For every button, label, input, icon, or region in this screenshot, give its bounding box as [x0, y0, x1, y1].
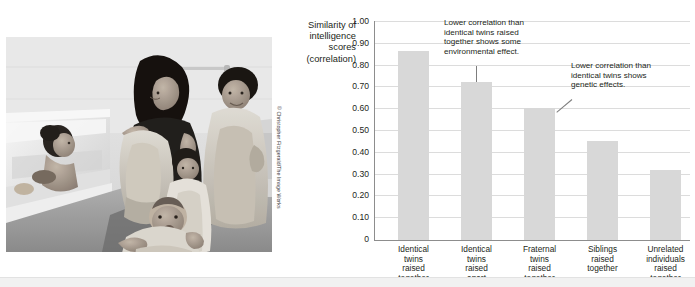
annotation-genetic-line-0: Lower correlation than: [571, 61, 651, 71]
annotation-environmental-leader-line: [476, 66, 477, 82]
y-axis-line: [374, 21, 375, 241]
y-tick-0.40: 0.40: [352, 147, 369, 157]
annotation-genetic-line-1: identical twins shows: [571, 71, 651, 81]
plot-area: 1.00 0.90 0.80 0.70 0.60 0.50 0.40 0.30 …: [374, 21, 690, 241]
y-tick-0: 0: [364, 234, 369, 244]
correlation-bar-chart: Similarity of intelligence scores (corre…: [286, 8, 690, 280]
bar-identical-twins-raised-together: [398, 51, 429, 240]
y-tick-1.00: 1.00: [352, 16, 369, 26]
bar-identical-twins-raised-apart: [461, 82, 492, 240]
y-tick-0.60: 0.60: [352, 103, 369, 113]
x-label-siblings-raised-together: Siblings raised together: [567, 245, 639, 274]
y-tick-0.50: 0.50: [352, 125, 369, 135]
gridline-0.90: [374, 43, 690, 44]
y-tick-0.80: 0.80: [352, 60, 369, 70]
x-axis-line: [374, 240, 690, 241]
annotation-environmental-line-2: together shows some: [444, 37, 524, 47]
x-label-3-line-2: together: [567, 264, 639, 274]
y-axis-title: Similarity of intelligence scores (corre…: [286, 20, 356, 65]
bar-siblings-raised-together: [587, 141, 618, 240]
annotation-genetic-line-2: genetic effects.: [571, 80, 651, 90]
figure-root: © Christopher Fitzgerald/The Image Works…: [0, 0, 695, 287]
annotation-genetic: Lower correlation than identical twins s…: [571, 61, 651, 90]
y-tick-0.70: 0.70: [352, 81, 369, 91]
y-axis-title-line-3: scores: [286, 42, 356, 53]
bar-fraternal-twins-raised-together: [524, 108, 555, 240]
footer-band: [0, 278, 695, 287]
photo-credit: © Christopher Fitzgerald/The Image Works: [276, 106, 282, 266]
y-axis-title-line-1: Similarity of: [286, 20, 356, 31]
annotation-environmental-line-1: identical twins raised: [444, 28, 524, 38]
annotation-environmental-line-3: environmental effect.: [444, 47, 524, 57]
y-tick-0.10: 0.10: [352, 212, 369, 222]
y-tick-0.20: 0.20: [352, 190, 369, 200]
annotation-genetic-leader-line: [556, 99, 572, 113]
y-tick-0.90: 0.90: [352, 38, 369, 48]
photo-image: [6, 37, 272, 252]
bar-unrelated-individuals-raised-together: [650, 170, 681, 240]
gridline-1.00: [374, 21, 690, 22]
annotation-environmental: Lower correlation than identical twins r…: [444, 18, 524, 57]
annotation-environmental-line-0: Lower correlation than: [444, 18, 524, 28]
y-axis-title-line-4: (correlation): [286, 54, 356, 65]
y-axis-title-line-2: intelligence: [286, 31, 356, 42]
family-bathroom-photo: [6, 37, 272, 252]
y-tick-0.30: 0.30: [352, 169, 369, 179]
